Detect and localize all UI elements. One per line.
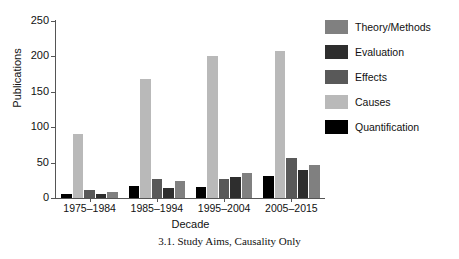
y-tick-label: 150 [31,86,49,97]
bar-quantification [129,186,140,198]
legend-label: Evaluation [355,46,404,58]
legend-label: Quantification [355,121,419,133]
bar-evaluation [163,188,174,198]
y-tick-label: 100 [31,121,49,132]
legend-swatch-icon [325,95,348,109]
legend-label: Theory/Methods [355,21,431,33]
bar-effects [286,158,297,198]
y-tick-label: 50 [37,157,49,168]
bar-causes [207,56,218,198]
x-tick-label: 1995–2004 [191,203,258,214]
bar-theory-methods [175,181,186,198]
bar-causes [140,79,151,198]
figure-study-aims-causality: Publications Decade 050100150200250 1975… [0,0,459,259]
y-tick-mark [51,163,56,164]
legend-label: Effects [355,71,387,83]
legend-label: Causes [355,96,391,108]
x-tick-label: 1975–1984 [56,203,123,214]
legend-item: Quantification [325,114,455,139]
y-tick-mark [51,21,56,22]
plot-area [56,21,325,198]
bar-group [56,21,123,198]
legend-swatch-icon [325,70,348,84]
bar-quantification [196,187,207,198]
y-axis-title: Publications [11,33,23,123]
y-tick-label: 250 [31,15,49,26]
legend-swatch-icon [325,20,348,34]
legend-item: Evaluation [325,39,455,64]
bar-group [191,21,258,198]
y-tick-label: 0 [43,192,49,203]
y-tick-mark [51,127,56,128]
legend-swatch-icon [325,120,348,134]
bar-evaluation [96,194,107,198]
bar-group [258,21,325,198]
bar-theory-methods [309,165,320,198]
bar-causes [275,51,286,198]
bar-evaluation [298,170,309,198]
legend-item: Effects [325,64,455,89]
y-tick-mark [51,56,56,57]
bar-evaluation [230,177,241,198]
bar-causes [73,134,84,198]
figure-caption: 3.1. Study Aims, Causality Only [0,235,459,248]
bar-theory-methods [107,192,118,198]
y-tick-mark [51,198,56,199]
bar-theory-methods [242,173,253,198]
bar-quantification [263,176,274,198]
x-tick-label: 2005–2015 [258,203,325,214]
bar-quantification [61,194,72,198]
legend-item: Causes [325,89,455,114]
y-tick-mark [51,92,56,93]
y-tick-label: 200 [31,50,49,61]
bar-effects [84,190,95,198]
legend-swatch-icon [325,45,348,59]
legend: Theory/MethodsEvaluationEffectsCausesQua… [325,14,455,139]
bar-group [123,21,190,198]
bar-effects [152,179,163,198]
x-axis-title: Decade [56,218,325,230]
x-axis-line [55,198,325,199]
legend-item: Theory/Methods [325,14,455,39]
x-tick-label: 1985–1994 [123,203,190,214]
bar-effects [219,179,230,198]
